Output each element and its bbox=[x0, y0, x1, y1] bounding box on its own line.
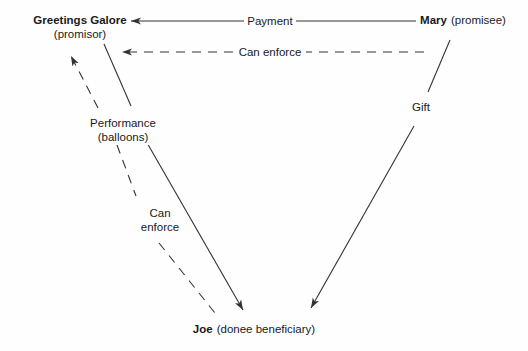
edge-label-performance-line1: Performance bbox=[90, 117, 156, 129]
edge-can-enforce-left bbox=[71, 56, 215, 313]
edge-label-can-enforce-top: Can enforce bbox=[236, 45, 305, 59]
relationship-diagram: Greetings Galore (promisor) Mary(promise… bbox=[0, 0, 528, 351]
edge-label-can-enforce-left: Can enforce bbox=[138, 206, 182, 235]
node-promisor: Greetings Galore (promisor) bbox=[33, 13, 126, 41]
edge-label-performance-line2: (balloons) bbox=[90, 130, 156, 144]
edge-performance bbox=[104, 44, 243, 310]
edge-label-gift: Gift bbox=[409, 100, 433, 114]
edge-label-payment: Payment bbox=[244, 14, 295, 28]
edge-label-performance: Performance (balloons) bbox=[87, 116, 159, 145]
node-beneficiary: Joe(donee beneficiary) bbox=[193, 322, 315, 336]
node-promisee-name: Mary bbox=[420, 14, 447, 26]
node-promisor-role: (promisor) bbox=[33, 27, 126, 41]
node-promisor-name: Greetings Galore bbox=[33, 14, 126, 26]
node-promisee: Mary(promisee) bbox=[420, 13, 506, 27]
edge-label-can-enforce-left-line1: Can bbox=[149, 207, 170, 219]
edge-label-can-enforce-left-line2: enforce bbox=[141, 220, 179, 234]
node-beneficiary-role: (donee beneficiary) bbox=[217, 323, 315, 335]
edge-gift bbox=[311, 40, 450, 308]
node-promisee-role: (promisee) bbox=[451, 14, 506, 26]
node-beneficiary-name: Joe bbox=[193, 323, 213, 335]
